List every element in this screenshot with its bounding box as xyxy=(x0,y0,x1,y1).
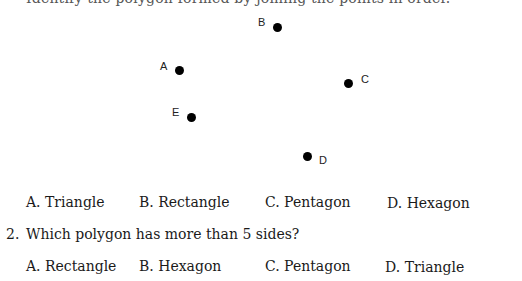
point-e-dot xyxy=(187,113,196,122)
point-d-dot xyxy=(303,152,312,161)
point-a-label: A xyxy=(160,61,167,72)
point-a-dot xyxy=(175,66,184,75)
point-b-label: B xyxy=(258,17,265,28)
question2-number: 2. xyxy=(6,227,19,241)
point-c-dot xyxy=(344,79,353,88)
point-c-label: C xyxy=(361,74,369,85)
q2-option-b[interactable]: B. Hexagon xyxy=(139,259,221,273)
q1-option-d[interactable]: D. Hexagon xyxy=(387,196,470,210)
q1-option-a[interactable]: A. Triangle xyxy=(26,195,105,209)
point-e-label: E xyxy=(172,107,179,118)
q2-option-d[interactable]: D. Triangle xyxy=(385,260,464,274)
points-figure: B A C E D xyxy=(0,0,522,180)
question2-text: Which polygon has more than 5 sides? xyxy=(26,227,299,241)
point-d-label: D xyxy=(319,155,327,166)
q1-option-c[interactable]: C. Pentagon xyxy=(265,195,351,209)
q2-option-a[interactable]: A. Rectangle xyxy=(26,259,116,273)
q1-option-b[interactable]: B. Rectangle xyxy=(139,195,230,209)
point-b-dot xyxy=(273,23,282,32)
q2-option-c[interactable]: C. Pentagon xyxy=(265,259,351,273)
